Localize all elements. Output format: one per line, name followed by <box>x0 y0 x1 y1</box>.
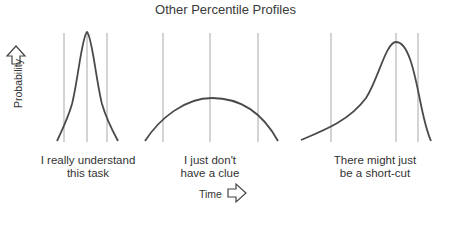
panel-skewed-caption: There might just be a short-cut <box>325 154 425 180</box>
caption-line: this task <box>38 167 138 180</box>
panel-narrow-percentile-lines <box>64 33 107 142</box>
x-axis-label: Time <box>199 188 222 200</box>
caption-line: be a short-cut <box>325 167 425 180</box>
panel-skewed-curve <box>301 42 431 141</box>
caption-line: have a clue <box>170 167 250 180</box>
panel-flat-percentile-lines <box>163 33 258 142</box>
right-arrow-icon <box>228 184 246 202</box>
caption-line: There might just <box>325 154 425 167</box>
caption-line: I really understand <box>38 154 138 167</box>
panel-narrow-caption: I really understand this task <box>38 154 138 180</box>
panel-flat-caption: I just don't have a clue <box>170 154 250 180</box>
caption-line: I just don't <box>170 154 250 167</box>
y-axis-label: Probability <box>12 59 24 108</box>
